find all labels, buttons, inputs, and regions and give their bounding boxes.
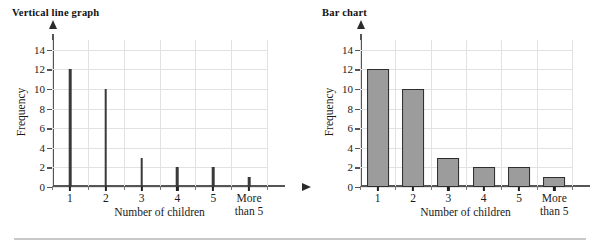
y-axis-tick-label: 4 xyxy=(40,142,46,154)
x-axis-tick-label: 5 xyxy=(516,192,522,205)
x-axis-tick-label: 3 xyxy=(139,192,145,205)
y-axis-tick xyxy=(47,69,52,70)
gridline-vertical xyxy=(195,40,196,187)
data-bar xyxy=(402,89,424,187)
data-bar xyxy=(437,158,459,187)
y-axis-tick-label: 10 xyxy=(342,83,353,95)
y-axis-tick xyxy=(47,167,52,168)
bottom-divider xyxy=(14,238,586,240)
gridline-vertical xyxy=(88,40,89,187)
y-axis-tick-label: 2 xyxy=(348,161,354,173)
y-axis-tick xyxy=(47,148,52,149)
chart-title-left: Vertical line graph xyxy=(12,7,99,18)
data-bar xyxy=(367,69,389,187)
y-axis-title-right: Frequency xyxy=(323,77,335,147)
x-axis-tick-minor xyxy=(572,186,573,190)
gridline-vertical xyxy=(501,40,502,187)
x-axis-tick-label: 3 xyxy=(445,192,451,205)
x-axis-tick-label: 4 xyxy=(481,192,487,205)
data-bar xyxy=(508,167,530,187)
y-axis-tick xyxy=(355,167,360,168)
x-axis-tick-minor xyxy=(360,186,361,190)
y-axis-tick xyxy=(47,89,52,90)
gridline-vertical xyxy=(431,40,432,187)
x-axis-tick-minor xyxy=(88,186,89,190)
data-vertical-line xyxy=(104,89,107,187)
y-axis-tick-label: 0 xyxy=(348,181,354,193)
x-axis-tick-minor xyxy=(431,186,432,190)
y-axis-tick-label: 4 xyxy=(348,142,354,154)
data-bar xyxy=(543,177,565,187)
data-vertical-line xyxy=(248,177,251,187)
y-axis-tick-label: 2 xyxy=(40,161,46,173)
x-axis-tick-label: 2 xyxy=(103,192,109,205)
gridline-vertical xyxy=(395,40,396,187)
gridline-vertical xyxy=(267,40,268,187)
y-axis-tick-label: 12 xyxy=(34,63,45,75)
data-vertical-line xyxy=(69,69,72,187)
y-axis-tick xyxy=(355,69,360,70)
y-axis-tick xyxy=(355,109,360,110)
y-axis-tick-label: 0 xyxy=(40,181,46,193)
x-axis-tick-label: 1 xyxy=(67,192,73,205)
x-axis-tick-label: 1 xyxy=(375,192,381,205)
gridline-vertical xyxy=(231,40,232,187)
gridline-vertical xyxy=(160,40,161,187)
y-axis-tick-label: 14 xyxy=(34,44,45,56)
y-axis-tick xyxy=(47,128,52,129)
y-axis-tick-label: 10 xyxy=(34,83,45,95)
y-axis-tick xyxy=(355,128,360,129)
x-axis-title-left: Number of children xyxy=(52,206,267,218)
y-axis-tick xyxy=(355,148,360,149)
x-axis-title-right: Number of children xyxy=(358,206,573,218)
y-axis-arrow-icon xyxy=(49,20,57,29)
x-axis-tick-label: 2 xyxy=(410,192,416,205)
x-axis-tick-minor xyxy=(52,186,53,190)
y-axis-tick-label: 12 xyxy=(342,63,353,75)
x-axis-tick-minor xyxy=(537,186,538,190)
y-axis-tick-label: 8 xyxy=(348,103,354,115)
gridline-vertical xyxy=(572,40,573,187)
chart-title-right: Bar chart xyxy=(322,7,367,18)
gridline-vertical xyxy=(52,40,53,187)
y-axis-tick-label: 14 xyxy=(342,44,353,56)
x-axis-tick-minor xyxy=(160,186,161,190)
x-axis-tick-minor xyxy=(124,186,125,190)
x-axis-tick-minor xyxy=(195,186,196,190)
data-vertical-line xyxy=(140,158,143,187)
y-axis-arrow-icon xyxy=(357,20,365,29)
gridline-vertical xyxy=(537,40,538,187)
data-vertical-line xyxy=(176,167,179,187)
bar-chart-panel: Bar chart 0246810121412345Morethan 5 Fre… xyxy=(298,0,596,250)
y-axis-tick-label: 6 xyxy=(40,122,46,134)
gridline-vertical xyxy=(360,40,361,187)
x-axis-tick-label: 5 xyxy=(210,192,216,205)
y-axis-tick-label: 6 xyxy=(348,122,354,134)
x-axis-tick-minor xyxy=(466,186,467,190)
x-axis-tick-minor xyxy=(267,186,268,190)
data-bar xyxy=(473,167,495,187)
y-axis-title-left: Frequency xyxy=(15,77,27,147)
x-axis-tick-minor xyxy=(395,186,396,190)
y-axis-tick-label: 8 xyxy=(40,103,46,115)
vertical-line-graph-panel: Vertical line graph 0246810121412345More… xyxy=(0,0,298,250)
y-axis-tick xyxy=(355,50,360,51)
y-axis-tick xyxy=(47,50,52,51)
plot-area-left: 0246810121412345Morethan 5 xyxy=(52,40,267,187)
gridline-vertical xyxy=(124,40,125,187)
plot-area-right: 0246810121412345Morethan 5 xyxy=(360,40,572,187)
x-axis-tick-label: 4 xyxy=(175,192,181,205)
data-vertical-line xyxy=(212,167,215,187)
x-axis-tick-minor xyxy=(231,186,232,190)
x-axis-tick-minor xyxy=(501,186,502,190)
y-axis-tick xyxy=(47,109,52,110)
y-axis-tick xyxy=(355,89,360,90)
gridline-vertical xyxy=(466,40,467,187)
